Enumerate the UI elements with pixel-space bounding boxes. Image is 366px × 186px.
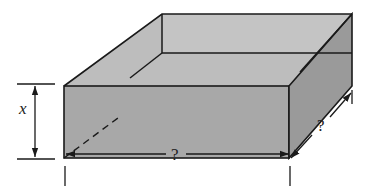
box-diagram: x ? ? xyxy=(0,0,366,186)
width-label: ? xyxy=(317,116,325,135)
height-label: x xyxy=(18,99,27,118)
length-label: ? xyxy=(171,145,179,164)
